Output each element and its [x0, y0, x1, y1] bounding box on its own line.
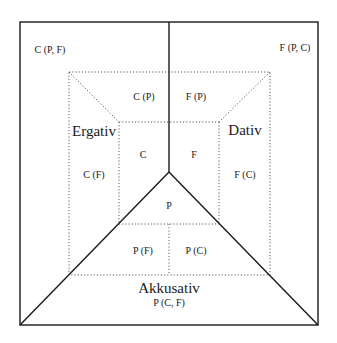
case-alignment-diagram: C (P, F) F (P, C) C (P) F (P) Ergativ Da… — [0, 0, 337, 343]
label-f-p-c: F (P, C) — [280, 42, 311, 53]
label-c: C — [140, 149, 147, 160]
label-f-p: F (P) — [186, 91, 206, 102]
label-akkusativ: Akkusativ — [138, 280, 200, 297]
label-c-p: C (P) — [133, 91, 154, 102]
label-f: F — [191, 149, 197, 160]
label-f-c: F (C) — [234, 169, 255, 180]
label-dativ: Dativ — [228, 122, 261, 139]
label-c-f: C (F) — [83, 169, 104, 180]
label-p-c-f: P (C, F) — [153, 297, 185, 308]
label-p: P — [166, 200, 172, 211]
label-p-f: P (F) — [133, 245, 153, 256]
label-p-c: P (C) — [185, 245, 206, 256]
label-c-p-f: C (P, F) — [35, 44, 66, 55]
label-ergativ: Ergativ — [72, 123, 116, 140]
